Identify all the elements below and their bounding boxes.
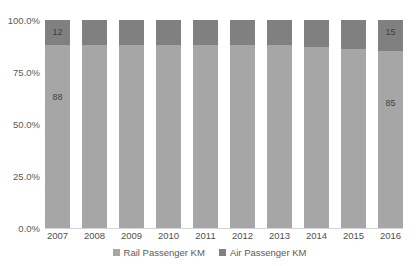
bar-segment-air[interactable]: 15: [378, 20, 403, 51]
bar-segment-rail[interactable]: [304, 47, 329, 228]
y-tick-label: 25.0%: [13, 171, 40, 182]
bar-stack: [193, 20, 218, 228]
legend-item[interactable]: Rail Passenger KM: [113, 247, 205, 258]
x-tick-label: 2010: [156, 230, 181, 244]
y-tick-label: 0.0%: [18, 223, 40, 234]
bar-segment-rail[interactable]: 88: [45, 45, 70, 228]
bar-segment-rail[interactable]: [82, 45, 107, 228]
bar-segment-rail[interactable]: [193, 45, 218, 228]
legend-swatch-icon: [113, 249, 120, 256]
x-tick-label: 2011: [193, 230, 218, 244]
x-tick-label: 2015: [341, 230, 366, 244]
bar-segment-air[interactable]: [119, 20, 144, 45]
bar-value-label: 12: [45, 27, 70, 37]
bar-column[interactable]: [341, 20, 366, 228]
bar-column[interactable]: [193, 20, 218, 228]
bar-segment-air[interactable]: [82, 20, 107, 45]
bar-stack: [267, 20, 292, 228]
bar-segment-air[interactable]: [304, 20, 329, 47]
bar-stack: [82, 20, 107, 228]
x-axis: 2007200820092010201120122013201420152016: [45, 230, 403, 244]
bar-value-label: 15: [378, 27, 403, 37]
bar-stack: 1288: [45, 20, 70, 228]
stacked-bar-chart: 100.0% 75.0% 50.0% 25.0% 0.0% 12881585 2…: [0, 0, 419, 266]
bar-segment-air[interactable]: [156, 20, 181, 45]
bar-segment-air[interactable]: [341, 20, 366, 49]
x-tick-label: 2016: [378, 230, 403, 244]
legend-swatch-icon: [219, 249, 226, 256]
x-tick-label: 2008: [82, 230, 107, 244]
bar-segment-rail[interactable]: [119, 45, 144, 228]
bar-column[interactable]: 1585: [378, 20, 403, 228]
bar-column[interactable]: [304, 20, 329, 228]
y-axis: 100.0% 75.0% 50.0% 25.0% 0.0%: [0, 0, 44, 240]
x-tick-label: 2009: [119, 230, 144, 244]
bar-stack: 1585: [378, 20, 403, 228]
bar-segment-rail[interactable]: [267, 45, 292, 228]
bar-segment-rail[interactable]: [341, 49, 366, 228]
bar-column[interactable]: [230, 20, 255, 228]
y-tick-label: 100.0%: [8, 15, 40, 26]
bar-value-label: 85: [378, 98, 403, 108]
bar-segment-air[interactable]: [230, 20, 255, 45]
bar-column[interactable]: [267, 20, 292, 228]
bar-column[interactable]: [156, 20, 181, 228]
legend-item[interactable]: Air Passenger KM: [219, 247, 307, 258]
x-tick-label: 2014: [304, 230, 329, 244]
chart-legend: Rail Passenger KMAir Passenger KM: [0, 247, 419, 258]
bar-segment-rail[interactable]: [156, 45, 181, 228]
y-tick-label: 75.0%: [13, 67, 40, 78]
legend-label: Rail Passenger KM: [124, 247, 205, 258]
bar-segment-rail[interactable]: [230, 45, 255, 228]
x-tick-label: 2007: [45, 230, 70, 244]
bar-segment-air[interactable]: [267, 20, 292, 45]
x-tick-label: 2012: [230, 230, 255, 244]
bar-stack: [156, 20, 181, 228]
bar-column[interactable]: 1288: [45, 20, 70, 228]
bar-stack: [230, 20, 255, 228]
bar-column[interactable]: [119, 20, 144, 228]
bar-stack: [304, 20, 329, 228]
bar-segment-air[interactable]: [193, 20, 218, 45]
x-axis-line: [45, 228, 403, 229]
bars-container: 12881585: [45, 20, 403, 228]
bar-stack: [341, 20, 366, 228]
y-tick-label: 50.0%: [13, 119, 40, 130]
bar-value-label: 88: [45, 92, 70, 102]
bar-segment-air[interactable]: 12: [45, 20, 70, 45]
bar-stack: [119, 20, 144, 228]
plot-area: 12881585: [45, 20, 403, 228]
bar-segment-rail[interactable]: 85: [378, 51, 403, 228]
bar-column[interactable]: [82, 20, 107, 228]
x-tick-label: 2013: [267, 230, 292, 244]
legend-label: Air Passenger KM: [230, 247, 307, 258]
